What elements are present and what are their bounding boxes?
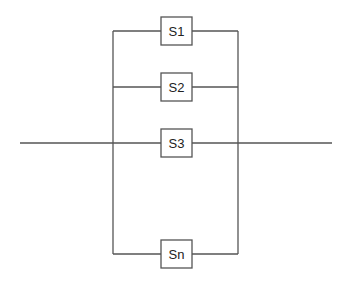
branch-s1: S1 bbox=[113, 17, 238, 45]
branch-s2: S2 bbox=[113, 73, 238, 101]
component-label-s1: S1 bbox=[169, 24, 185, 39]
branch-sn: Sn bbox=[113, 240, 238, 268]
parallel-system-diagram: S1 S2 S3 Sn bbox=[0, 0, 347, 285]
component-label-sn: Sn bbox=[169, 247, 185, 262]
component-label-s3: S3 bbox=[169, 136, 185, 151]
component-label-s2: S2 bbox=[169, 80, 185, 95]
branch-s3: S3 bbox=[113, 129, 238, 157]
